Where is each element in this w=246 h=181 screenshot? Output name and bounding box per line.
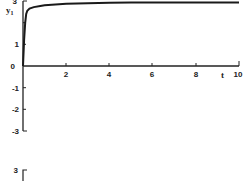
chart-plot: 2 4 6 8 10 3 1 0 -1 -2 -3 y1 t 3 (0, 0, 246, 181)
y-tick-label: 1 (15, 40, 20, 49)
y-tick-label: -1 (12, 84, 20, 93)
x-tick-label: 2 (64, 70, 69, 79)
y-tick-label: -2 (12, 105, 20, 114)
y-tick-label: 0 (11, 62, 16, 71)
x-axis-label: t (221, 70, 224, 80)
x-tick-label: 6 (150, 70, 155, 79)
x-tick-label: 4 (107, 70, 112, 79)
second-panel-axis-corner (23, 170, 27, 181)
y-axis-label: y1 (6, 5, 14, 16)
x-ticks (66, 61, 239, 66)
series-y1-line (23, 3, 239, 67)
second-panel-y-tick-label: 3 (14, 166, 19, 175)
y-tick-label: 3 (13, 0, 18, 6)
x-tick-label: 8 (194, 70, 199, 79)
x-tick-label: 10 (234, 70, 243, 79)
y-tick-label: -3 (12, 127, 20, 136)
